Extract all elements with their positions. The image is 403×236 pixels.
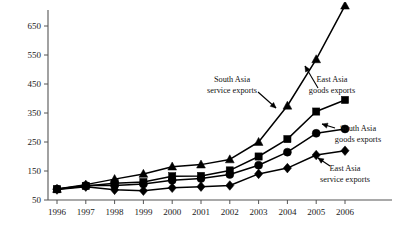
data-point-circle — [197, 175, 205, 183]
series-east-asia-service-exports — [53, 146, 349, 196]
x-tick-label: 1999 — [134, 207, 153, 217]
annotation-label-line1: South Asia — [214, 75, 251, 84]
annotation-label-line2: goods exports — [335, 135, 381, 144]
annotation-label-line2: service exports — [320, 175, 370, 184]
annotation-label-line2: service exports — [207, 86, 257, 95]
data-point-triangle — [312, 55, 321, 63]
annotation-label-line1: East Asia — [329, 164, 360, 173]
chart-container: 5015025035045055065019961997199819992000… — [0, 0, 403, 236]
y-tick-label: 450 — [28, 79, 42, 89]
x-tick-label: 1997 — [77, 207, 96, 217]
data-point-diamond — [341, 146, 349, 156]
annotation-south-asia-goods-exports: South Asiagoods exports — [322, 123, 381, 144]
data-point-square — [313, 108, 320, 115]
series-south-asia-service-exports — [53, 1, 350, 192]
data-point-diamond — [226, 181, 234, 191]
y-tick-label: 550 — [28, 50, 42, 60]
data-point-circle — [255, 161, 263, 169]
x-tick-label: 2004 — [278, 207, 297, 217]
y-tick-label: 50 — [32, 195, 42, 205]
annotation-label-line1: South Asia — [340, 124, 377, 133]
x-tick-label: 2006 — [336, 207, 355, 217]
x-tick-label: 2005 — [307, 207, 326, 217]
y-tick-label: 650 — [28, 21, 42, 31]
x-tick-label: 2003 — [250, 207, 269, 217]
x-tick-label: 2001 — [192, 207, 210, 217]
data-point-diamond — [283, 163, 291, 173]
x-tick-label: 2000 — [163, 207, 182, 217]
annotation-label-line2: goods exports — [309, 86, 355, 95]
x-tick-label: 1996 — [48, 207, 67, 217]
line-chart: 5015025035045055065019961997199819992000… — [0, 0, 403, 236]
annotation-label-line1: East Asia — [316, 75, 347, 84]
x-tick-label: 1998 — [106, 207, 125, 217]
data-point-circle — [226, 170, 234, 178]
y-tick-label: 350 — [28, 108, 42, 118]
data-point-diamond — [255, 169, 263, 179]
data-point-triangle — [283, 101, 292, 109]
annotation-arrowhead — [318, 158, 324, 163]
annotation-arrowhead — [322, 123, 328, 128]
annotation-east-asia-goods-exports: East Asiagoods exports — [305, 66, 355, 95]
data-point-triangle — [341, 1, 350, 9]
data-point-diamond — [197, 182, 205, 192]
annotation-south-asia-service-exports: South Asiaservice exports — [207, 75, 276, 108]
data-point-square — [255, 153, 262, 160]
data-point-square — [341, 96, 348, 103]
data-point-diamond — [168, 183, 176, 193]
annotation-east-asia-service-exports: East Asiaservice exports — [318, 158, 370, 184]
y-tick-label: 250 — [28, 137, 42, 147]
data-point-diamond — [139, 186, 147, 196]
x-tick-label: 2002 — [221, 207, 239, 217]
data-point-circle — [283, 148, 291, 156]
data-point-circle — [312, 129, 320, 137]
data-point-square — [284, 136, 291, 143]
data-point-triangle — [225, 155, 234, 163]
y-tick-label: 150 — [28, 166, 42, 176]
